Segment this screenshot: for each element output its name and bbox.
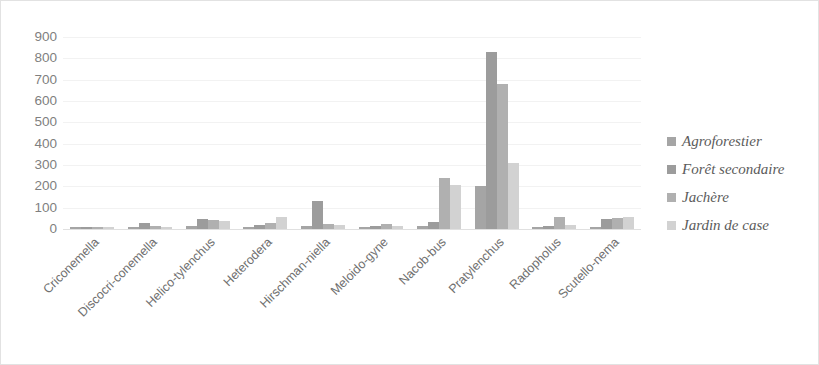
y-axis-tick-900: 900 [1,30,57,44]
legend-swatch-icon [667,165,676,174]
bar[interactable] [612,218,623,229]
bar[interactable] [197,219,208,229]
y-axis-tick-400: 400 [1,137,57,151]
y-axis: 9008007006005004003002001000 [1,37,57,229]
bar-group [301,37,345,229]
y-axis-tick-300: 300 [1,158,57,172]
plot-area [63,37,641,229]
y-axis-tick-800: 800 [1,52,57,66]
legend-label: Agroforestier [682,133,762,150]
bar-group [243,37,287,229]
bar[interactable] [601,219,612,229]
bar[interactable] [508,163,519,229]
bar[interactable] [439,178,450,229]
bar[interactable] [554,217,565,229]
bars-layer [63,37,641,229]
bar[interactable] [497,84,508,229]
bar[interactable] [219,221,230,229]
chart-container: 9008007006005004003002001000 Criconemell… [0,0,819,365]
legend-item[interactable]: Agroforestier [667,127,813,155]
bar[interactable] [450,185,461,229]
legend-label: Jachère [682,189,729,206]
chart-legend: AgroforestierForêt secondaireJachèreJard… [667,127,813,239]
bar[interactable] [208,220,219,229]
bar[interactable] [312,201,323,229]
bar-group [475,37,519,229]
bar-group [532,37,576,229]
bar-group [186,37,230,229]
legend-swatch-icon [667,193,676,202]
bar-group [359,37,403,229]
bar-group [417,37,461,229]
legend-label: Jardin de case [682,217,769,234]
x-axis: CriconemellaDiscocri-conemellaHelico-tyl… [63,229,641,339]
y-axis-tick-600: 600 [1,94,57,108]
bar-group [70,37,114,229]
legend-item[interactable]: Jardin de case [667,211,813,239]
bar[interactable] [276,217,287,229]
y-axis-tick-100: 100 [1,201,57,215]
legend-swatch-icon [667,137,676,146]
legend-item[interactable]: Jachère [667,183,813,211]
y-axis-tick-0: 0 [1,222,57,236]
y-axis-tick-700: 700 [1,73,57,87]
bar[interactable] [623,217,634,229]
bar[interactable] [486,52,497,229]
legend-label: Forêt secondaire [682,161,784,178]
bar[interactable] [475,186,486,229]
y-axis-tick-500: 500 [1,116,57,130]
y-axis-tick-200: 200 [1,180,57,194]
legend-item[interactable]: Forêt secondaire [667,155,813,183]
bar-group [590,37,634,229]
bar-group [128,37,172,229]
bar[interactable] [428,222,439,229]
legend-swatch-icon [667,221,676,230]
